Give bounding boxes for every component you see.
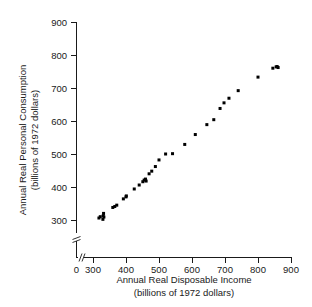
data-point [115,204,118,207]
data-point [194,133,197,136]
x-axis [77,254,293,262]
y-tick-label: 700 [51,83,67,94]
data-point [219,107,222,110]
data-point [122,197,125,200]
x-axis-title: Annual Real Disposable Income [116,274,251,285]
y-axis-title: Annual Real Personal Consumption [17,65,28,216]
data-point [212,118,215,121]
data-point [154,165,157,168]
data-point [102,216,105,219]
data-point [102,212,105,215]
data-point [150,170,153,173]
data-point [227,97,230,100]
y-tick-label: 500 [51,149,67,160]
data-point [237,89,240,92]
x-tick-label: 0 [74,264,79,275]
data-point [99,215,102,218]
data-point [257,76,260,79]
x-tick-label: 300 [85,264,101,275]
data-point [164,153,167,156]
y-tick-label: 300 [51,215,67,226]
data-point [145,180,148,183]
y-axis-title-sub: (billions of 1972 dollars) [29,90,40,190]
data-point-layer [97,65,279,221]
y-tick-label: 600 [51,116,67,127]
y-tick-label: 400 [51,182,67,193]
data-point [158,158,161,161]
data-point [171,152,174,155]
y-tick-label: 800 [51,50,67,61]
data-point [125,194,128,197]
x-tick-label: 900 [283,264,299,275]
data-point [148,172,151,175]
data-point [138,184,141,187]
data-point [205,123,208,126]
data-point [223,101,226,104]
y-axis [73,22,81,258]
x-tick-label: 800 [250,264,266,275]
y-tick-group: 300400500600700800900 [51,17,76,226]
x-tick-group: 0300400500600700800900 [74,258,299,276]
data-point [133,187,136,190]
y-tick-label: 900 [51,17,67,28]
data-point [183,143,186,146]
x-axis-title-sub: (billions of 1972 dollars) [134,287,234,298]
data-point [271,67,274,70]
scatter-plot-figure: 300400500600700800900 030040050060070080… [0,0,312,307]
data-point [277,66,280,69]
chart-canvas: 300400500600700800900 030040050060070080… [0,0,312,307]
